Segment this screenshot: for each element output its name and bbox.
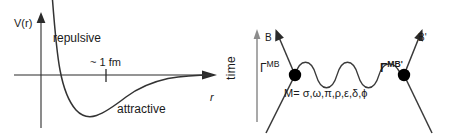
potential-plot-svg xyxy=(0,0,232,137)
x-axis xyxy=(14,70,217,79)
vertex-label-left-superscript: MB xyxy=(267,59,280,69)
time-axis xyxy=(254,29,261,122)
y-axis xyxy=(37,12,46,128)
baryon-label-left: B xyxy=(265,33,272,43)
vertex-dot-left xyxy=(289,69,301,81)
time-axis-label: time xyxy=(225,56,237,80)
vertex-label-left: ΓMB xyxy=(260,62,280,74)
vertex-label-right: ΓMB' xyxy=(380,62,403,74)
annotation-repulsive: repulsive xyxy=(53,32,101,44)
x-axis-label: r xyxy=(210,92,214,103)
y-axis-label: V(r) xyxy=(14,18,32,29)
vertex-label-left-gamma: Γ xyxy=(260,61,267,75)
baryon-line-in-right xyxy=(404,75,432,133)
figure-container: V(r) repulsive ~ 1 fm attractive r xyxy=(0,0,463,137)
vertex-label-right-superscript: MB' xyxy=(387,59,402,69)
panel-meson-exchange-diagram: time ΓMB ΓMB' B B' M= σ,ω,π,ρ,ε,δ,ϕ xyxy=(232,0,463,137)
baryon-label-right: B' xyxy=(418,33,427,43)
baryon-line-in-left xyxy=(266,75,295,133)
potential-curve xyxy=(53,0,213,117)
annotation-range-marker: ~ 1 fm xyxy=(90,57,121,68)
annotation-attractive: attractive xyxy=(117,103,166,115)
panel-nucleon-potential: V(r) repulsive ~ 1 fm attractive r xyxy=(0,0,232,137)
meson-exchange-label: M= σ,ω,π,ρ,ε,δ,ϕ xyxy=(284,88,367,99)
